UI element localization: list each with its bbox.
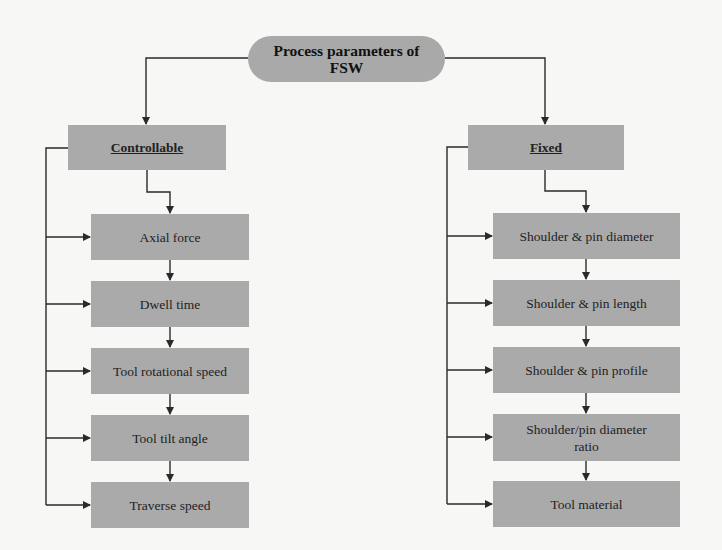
- root-label-line-1: Process parameters of: [273, 42, 419, 59]
- fixed-item-shoulder-pin-diameter-ratio: Shoulder/pin diameter ratio: [493, 414, 680, 461]
- fixed-item-shoulder-pin-length: Shoulder & pin length: [493, 280, 680, 326]
- root-node-label: Process parameters of FSW: [273, 42, 419, 76]
- controllable-item-tool-rotational-speed: Tool rotational speed: [91, 348, 249, 394]
- node-label: Tool rotational speed: [113, 363, 227, 380]
- node-label: Tool tilt angle: [132, 430, 208, 447]
- branch-label-fixed: Fixed: [530, 139, 562, 156]
- node-label: Shoulder & pin diameter: [520, 228, 654, 245]
- branch-label-controllable: Controllable: [111, 139, 184, 156]
- root-label-line-2: FSW: [330, 59, 364, 76]
- branch-node-controllable: Controllable: [68, 125, 226, 170]
- node-label: Axial force: [139, 229, 200, 246]
- root-node-process-parameters: Process parameters of FSW: [248, 36, 445, 82]
- controllable-item-tool-tilt-angle: Tool tilt angle: [91, 415, 249, 461]
- controllable-item-axial-force: Axial force: [91, 214, 249, 260]
- controllable-item-traverse-speed: Traverse speed: [91, 482, 249, 528]
- node-label: Tool material: [550, 496, 622, 513]
- node-label: Traverse speed: [130, 497, 211, 514]
- node-label: Shoulder & pin length: [526, 295, 646, 312]
- fixed-item-shoulder-pin-diameter: Shoulder & pin diameter: [493, 213, 680, 259]
- branch-node-fixed: Fixed: [468, 125, 624, 170]
- fixed-item-tool-material: Tool material: [493, 481, 680, 527]
- controllable-item-dwell-time: Dwell time: [91, 281, 249, 327]
- node-label: Shoulder/pin diameter ratio: [517, 421, 656, 455]
- node-label: Shoulder & pin profile: [525, 362, 648, 379]
- connector-lines: [0, 0, 722, 550]
- node-label: Dwell time: [140, 296, 200, 313]
- fsw-process-parameters-diagram: Process parameters of FSW Controllable A…: [0, 0, 722, 550]
- fixed-item-shoulder-pin-profile: Shoulder & pin profile: [493, 347, 680, 393]
